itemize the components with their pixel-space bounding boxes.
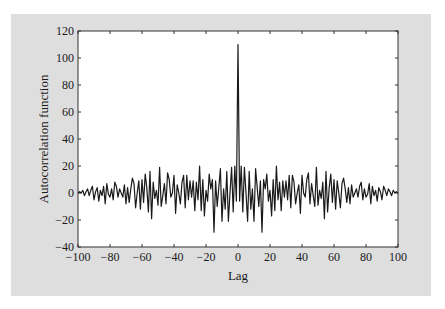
autocorrelation-chart: −100−80−60−40−20020406080100 −40−2002040…	[0, 0, 445, 309]
x-tick-label: 80	[360, 250, 372, 264]
x-tick-label: 60	[328, 250, 340, 264]
y-tick-label: 40	[62, 132, 74, 146]
y-tick-labels: −40−20020406080100120	[55, 24, 74, 254]
y-tick-label: 20	[62, 159, 74, 173]
y-tick-label: −40	[55, 240, 74, 254]
x-tick-label: 0	[235, 250, 241, 264]
x-tick-label: 20	[264, 250, 276, 264]
y-tick-label: 60	[62, 105, 74, 119]
y-tick-label: 80	[62, 78, 74, 92]
x-tick-label: −40	[165, 250, 184, 264]
y-tick-label: 120	[56, 24, 74, 38]
y-tick-label: −20	[55, 213, 74, 227]
y-tick-label: 0	[68, 186, 74, 200]
x-tick-label: −80	[101, 250, 120, 264]
x-tick-label: −60	[133, 250, 152, 264]
y-axis-title: Autocorrelation function	[36, 74, 51, 203]
x-axis-title: Lag	[228, 268, 249, 283]
x-tick-label: −20	[197, 250, 216, 264]
x-tick-label: 100	[389, 250, 407, 264]
x-tick-labels: −100−80−60−40−20020406080100	[66, 250, 407, 264]
x-tick-label: 40	[296, 250, 308, 264]
y-tick-label: 100	[56, 51, 74, 65]
